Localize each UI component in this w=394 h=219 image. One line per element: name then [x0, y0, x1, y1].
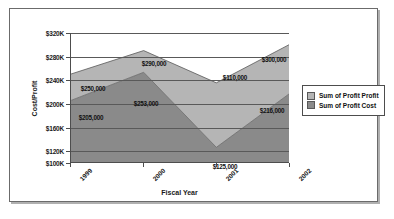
y-axis-tick-mark [66, 151, 70, 152]
x-axis-tick-mark [70, 163, 71, 167]
value-label-cost: $216,000 [260, 107, 285, 114]
value-label-profit: $110,000 [223, 74, 247, 81]
y-axis-tick-mark [66, 33, 70, 34]
y-axis-tick-label: $320K [10, 30, 64, 37]
y-axis-tick-label: $280K [10, 53, 64, 60]
x-axis-tick-mark [289, 163, 290, 167]
y-axis-tick-mark [66, 80, 70, 81]
chart-legend: Sum of Profit Profit Sum of Profit Cost [302, 85, 385, 116]
x-axis-tick-label: 1999 [78, 167, 93, 182]
legend-label-profit: Sum of Profit Profit [319, 92, 379, 99]
gridline [71, 80, 289, 81]
y-axis-tick-label: $240K [10, 77, 64, 84]
y-axis-tick-mark [66, 57, 70, 58]
gridline [71, 104, 289, 105]
x-axis-tick-label: 2000 [151, 167, 166, 182]
gridline [71, 57, 289, 58]
gridline [71, 151, 289, 152]
value-label-profit: $300,000 [262, 55, 287, 62]
x-axis-tick-mark [143, 163, 144, 167]
y-axis-tick-mark [66, 128, 70, 129]
value-label-cost: $253,000 [134, 99, 159, 106]
plot-area: $250,000$290,000$110,000$300,000$205,000… [70, 33, 289, 163]
y-axis-tick-label: $200K [10, 100, 64, 107]
legend-item-cost: Sum of Profit Cost [307, 101, 379, 109]
y-axis-tick-mark [66, 104, 70, 105]
value-label-profit: $290,000 [142, 59, 167, 66]
x-axis-tick-mark [216, 163, 217, 167]
legend-swatch-cost [307, 101, 315, 109]
x-axis-tick-label: 2002 [297, 167, 312, 182]
chart-frame: Cost/Profit $250,000$290,000$110,000$300… [9, 8, 378, 202]
value-label-profit: $250,000 [81, 85, 106, 92]
x-axis-title: Fiscal Year [70, 189, 289, 196]
value-label-cost: $205,000 [79, 113, 104, 120]
gridline [71, 128, 289, 129]
legend-label-cost: Sum of Profit Cost [319, 102, 376, 109]
y-axis-tick-label: $160K [10, 124, 64, 131]
y-axis-title-text: Cost/Profit [32, 80, 39, 116]
legend-item-profit: Sum of Profit Profit [307, 92, 379, 100]
legend-swatch-profit [307, 92, 315, 100]
y-axis-tick-label: $100K [10, 160, 64, 167]
y-axis-tick-label: $120K [10, 148, 64, 155]
series-areas [71, 33, 289, 162]
gridline [71, 33, 289, 34]
